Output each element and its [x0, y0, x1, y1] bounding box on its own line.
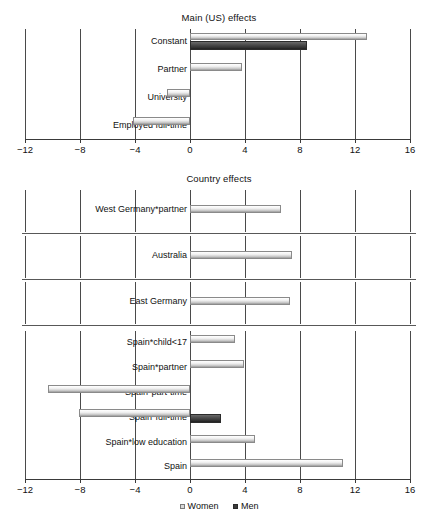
- bar-label-australia: Australia: [152, 250, 187, 261]
- bar-label-spain-partner: Spain*partner: [132, 362, 187, 373]
- bar-spain-child-women: [190, 335, 235, 343]
- axis-tick-main-3: [190, 139, 191, 143]
- bar-row-partner: Partner: [0, 57, 438, 85]
- panel-divider-3: [22, 325, 416, 326]
- bar-constant-men: [190, 41, 307, 50]
- bar-row-spain-full-time: Spain*full-time: [0, 406, 438, 431]
- legend-label-men: Men: [241, 501, 259, 511]
- bar-spain-full-time-men: [190, 414, 221, 423]
- panel-east-germany-plot-area: East Germany: [0, 282, 438, 324]
- bar-row-constant: Constant: [0, 29, 438, 57]
- main-panel-title: Main (US) effects: [0, 12, 438, 23]
- bar-label-spain-child: Spain*child<17: [127, 337, 187, 348]
- bar-row-employed-full-time: Employed full-time: [0, 113, 438, 139]
- axis-tick-main-6: [355, 139, 356, 143]
- axis-ticklabel-main-4: 4: [242, 144, 247, 155]
- country-panel-title: Country effects: [0, 173, 438, 184]
- bar-spain-low-education-women: [190, 435, 255, 443]
- axis-tick-main-1: [80, 139, 81, 143]
- bar-row-australia: Australia: [0, 236, 438, 278]
- bar-spain-women: [190, 459, 343, 467]
- bar-label-east-germany: East Germany: [129, 296, 187, 307]
- bar-row-east-germany: East Germany: [0, 282, 438, 324]
- axis-tick-main-0: [25, 139, 26, 143]
- panel-australia-plot-area: Australia: [0, 236, 438, 278]
- bar-spain-partner-women: [190, 360, 244, 368]
- panel-main-us-effects: Constant Partner University Employed ful…: [0, 29, 438, 139]
- bar-australia-women: [190, 251, 292, 259]
- axis-tick-main-2: [135, 139, 136, 143]
- axis-ticklabel-bottom-6: 12: [350, 484, 361, 495]
- bar-row-west-germany-partner: West Germany*partner: [0, 190, 438, 232]
- bar-row-spain-partner: Spain*partner: [0, 356, 438, 381]
- bar-row-spain-child: Spain*child<17: [0, 331, 438, 356]
- legend-item-women: Women: [180, 501, 219, 511]
- bar-east-germany-women: [190, 297, 290, 305]
- panel-spain: Spain*child<17 Spain*partner Spain*part-…: [0, 331, 438, 479]
- axis-tick-bottom-7: [410, 479, 411, 483]
- legend-label-women: Women: [188, 501, 219, 511]
- bar-row-university: University: [0, 85, 438, 113]
- chart-page: Main (US) effects Constant Partner: [0, 0, 438, 523]
- panel-west-germany-partner: West Germany*partner: [0, 190, 438, 232]
- axis-ticklabel-main-7: 16: [405, 144, 416, 155]
- panel-australia: Australia: [0, 236, 438, 278]
- axis-line-bottom: [25, 479, 410, 480]
- bar-row-spain: Spain: [0, 456, 438, 479]
- axis-tick-bottom-5: [300, 479, 301, 483]
- bar-university-women: [167, 89, 190, 97]
- panel-spain-plot-area: Spain*child<17 Spain*partner Spain*part-…: [0, 331, 438, 479]
- legend-swatch-women-icon: [180, 504, 185, 509]
- bar-west-germany-partner-women: [190, 205, 281, 213]
- bar-employed-full-time-women: [133, 117, 190, 125]
- bar-row-spain-part-time: Spain*part-time: [0, 381, 438, 406]
- bar-constant-women: [190, 33, 367, 40]
- axis-ticklabel-main-1: −8: [75, 144, 86, 155]
- bar-label-constant: Constant: [151, 36, 187, 47]
- bar-row-spain-low-education: Spain*low education: [0, 431, 438, 456]
- axis-line-main: [25, 139, 410, 140]
- axis-ticklabel-bottom-2: −4: [130, 484, 141, 495]
- axis-tick-main-5: [300, 139, 301, 143]
- panel-main-plot-area: Constant Partner University Employed ful…: [0, 29, 438, 139]
- axis-tick-main-4: [245, 139, 246, 143]
- chart-legend: Women Men: [0, 501, 438, 511]
- legend-item-men: Men: [233, 501, 259, 511]
- axis-tick-bottom-0: [25, 479, 26, 483]
- axis-tick-bottom-4: [245, 479, 246, 483]
- axis-ticklabel-bottom-4: 4: [242, 484, 247, 495]
- axis-ticklabel-bottom-1: −8: [75, 484, 86, 495]
- axis-tick-main-7: [410, 139, 411, 143]
- axis-ticklabel-main-3: 0: [187, 144, 192, 155]
- axis-ticklabel-main-6: 12: [350, 144, 361, 155]
- bar-spain-part-time-women: [48, 385, 190, 393]
- axis-ticklabel-main-0: −12: [17, 144, 33, 155]
- panel-divider-1: [22, 233, 416, 234]
- axis-tick-bottom-3: [190, 479, 191, 483]
- axis-ticklabel-bottom-5: 8: [297, 484, 302, 495]
- axis-tick-bottom-2: [135, 479, 136, 483]
- legend-swatch-men-icon: [233, 504, 238, 509]
- panel-east-germany: East Germany: [0, 282, 438, 324]
- axis-ticklabel-main-5: 8: [297, 144, 302, 155]
- bar-label-spain-low-education: Spain*low education: [105, 437, 187, 448]
- bar-label-partner: Partner: [157, 64, 187, 75]
- axis-tick-bottom-1: [80, 479, 81, 483]
- axis-ticklabel-bottom-0: −12: [17, 484, 33, 495]
- bar-label-spain: Spain: [164, 461, 187, 472]
- panel-divider-2: [22, 279, 416, 280]
- axis-ticklabel-bottom-3: 0: [187, 484, 192, 495]
- axis-tick-bottom-6: [355, 479, 356, 483]
- axis-ticklabel-bottom-7: 16: [405, 484, 416, 495]
- axis-ticklabel-main-2: −4: [130, 144, 141, 155]
- panel-wg-plot-area: West Germany*partner: [0, 190, 438, 232]
- bar-label-west-germany-partner: West Germany*partner: [95, 204, 187, 215]
- bar-partner-women: [190, 63, 242, 71]
- bar-spain-full-time-women: [79, 409, 190, 417]
